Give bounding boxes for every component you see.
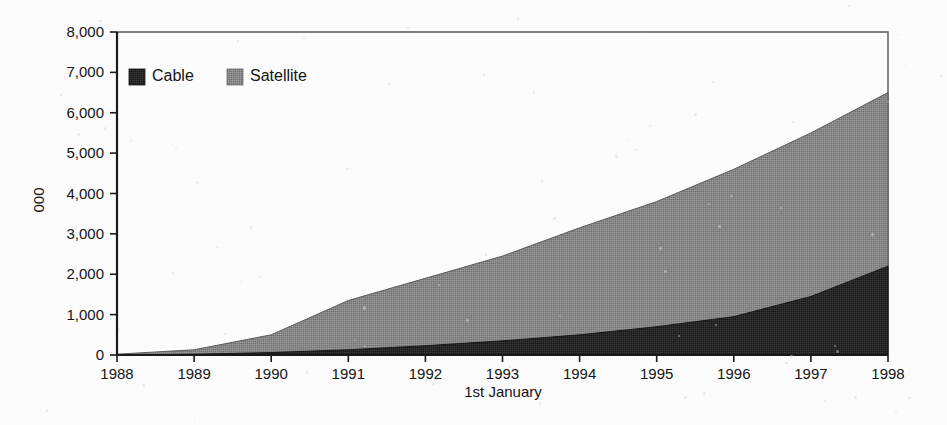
y-tick-label: 3,000	[66, 225, 104, 242]
chart-figure: 01,0002,0003,0004,0005,0006,0007,0008,00…	[0, 0, 947, 425]
x-axis-title: 1st January	[464, 383, 542, 400]
legend-label: Cable	[152, 67, 194, 84]
y-tick-label: 1,000	[66, 306, 104, 323]
y-axis-tick-labels: 01,0002,0003,0004,0005,0006,0007,0008,00…	[66, 23, 104, 363]
y-tick-label: 7,000	[66, 63, 104, 80]
x-tick-label: 1993	[486, 365, 519, 382]
legend-label: Satellite	[250, 67, 307, 84]
x-tick-label: 1988	[100, 365, 133, 382]
y-tick-label: 6,000	[66, 104, 104, 121]
y-tick-label: 2,000	[66, 265, 104, 282]
x-tick-label: 1997	[794, 365, 827, 382]
x-tick-label: 1998	[871, 365, 904, 382]
x-tick-label: 1990	[255, 365, 288, 382]
y-tick-label: 0	[96, 346, 104, 363]
x-tick-label: 1991	[332, 365, 365, 382]
area-series-group	[117, 93, 888, 355]
legend-item[interactable]: Satellite	[227, 67, 307, 85]
x-tick-label: 1996	[717, 365, 750, 382]
chart-legend: CableSatellite	[129, 67, 307, 85]
y-tick-label: 5,000	[66, 144, 104, 161]
legend-swatch	[129, 69, 145, 85]
x-tick-label: 1992	[409, 365, 442, 382]
legend-item[interactable]: Cable	[129, 67, 194, 85]
y-axis-title: 000	[30, 187, 47, 212]
stacked-area-chart: 01,0002,0003,0004,0005,0006,0007,0008,00…	[0, 0, 947, 425]
x-tick-label: 1989	[177, 365, 210, 382]
y-tick-label: 8,000	[66, 23, 104, 40]
x-axis-tick-labels: 1988198919901991199219931994199519961997…	[100, 365, 904, 382]
x-tick-label: 1994	[563, 365, 596, 382]
x-tick-label: 1995	[640, 365, 673, 382]
legend-swatch	[227, 69, 243, 85]
y-tick-label: 4,000	[66, 185, 104, 202]
